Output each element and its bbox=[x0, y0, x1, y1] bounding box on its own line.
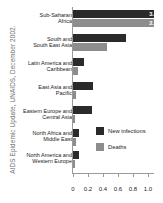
bar-deaths-east-asia-and-pacific bbox=[73, 91, 76, 99]
bar-deaths-south-and-south-east-asia bbox=[73, 43, 107, 51]
x-axis-tick bbox=[148, 173, 149, 177]
bar-value-new-infections-sub-saharan-africa: 3.2 bbox=[149, 10, 157, 18]
bar-deaths-north-america-and-western-europe bbox=[73, 160, 75, 168]
x-axis-tick-label: 0.2 bbox=[80, 186, 96, 192]
bar-new-infections-north-america-and-western-europe bbox=[73, 151, 79, 159]
legend-item-deaths: Deaths bbox=[96, 141, 146, 153]
bar-deaths-north-africa-and-middle-east bbox=[73, 138, 76, 146]
x-axis-line bbox=[72, 173, 154, 174]
x-axis-tick bbox=[118, 173, 119, 177]
bar-new-infections-east-asia-and-pacific bbox=[73, 82, 93, 90]
y-axis-line bbox=[72, 7, 73, 173]
x-axis-tick-label: 0.8 bbox=[125, 186, 141, 192]
bar-deaths-eastern-europe-and-central-asia bbox=[73, 115, 75, 123]
x-axis-tick-label: 1.0 bbox=[140, 186, 156, 192]
legend-swatch-deaths-icon bbox=[96, 143, 104, 151]
legend-label-deaths: Deaths bbox=[108, 144, 126, 150]
chart-legend: New infections Deaths bbox=[96, 125, 146, 157]
category-label-north-america-and-western-europe: North America and Western Europe bbox=[16, 152, 72, 164]
legend-swatch-new-infections-icon bbox=[96, 127, 104, 135]
legend-item-new-infections: New infections bbox=[96, 125, 146, 137]
bar-new-infections-south-and-south-east-asia bbox=[73, 34, 126, 42]
bar-new-infections-sub-saharan-africa bbox=[73, 10, 154, 18]
x-axis-tick bbox=[103, 173, 104, 177]
legend-label-new-infections: New infections bbox=[108, 128, 146, 134]
category-label-eastern-europe-and-central-asia: Eastern Europe and Central Asia bbox=[16, 108, 72, 120]
bar-deaths-sub-saharan-africa bbox=[73, 19, 154, 27]
bar-deaths-latin-america-and-caribbean bbox=[73, 67, 78, 75]
bar-new-infections-eastern-europe-and-central-asia bbox=[73, 106, 92, 114]
bar-new-infections-latin-america-and-caribbean bbox=[73, 58, 84, 66]
bar-value-deaths-sub-saharan-africa: 2.3 bbox=[149, 19, 157, 27]
x-axis-tick bbox=[73, 173, 74, 177]
x-axis-tick-label: 0.4 bbox=[95, 186, 111, 192]
category-label-south-and-south-east-asia: South and South East Asia bbox=[16, 36, 72, 48]
x-axis-tick-label: 0.6 bbox=[110, 186, 126, 192]
chart-figure: AIDS Epidemic Update, UNAIDS, December 2… bbox=[0, 0, 163, 203]
x-axis-tick bbox=[133, 173, 134, 177]
plot-area: Sub-Saharan Africa South and South East … bbox=[0, 0, 163, 203]
x-axis-tick-label: 0 bbox=[65, 186, 81, 192]
bar-new-infections-north-africa-and-middle-east bbox=[73, 129, 79, 137]
category-label-east-asia-and-pacific: East Asia and Pacific bbox=[16, 84, 72, 96]
category-label-north-africa-and-middle-east: North Africa and Middle East bbox=[16, 130, 72, 142]
category-label-latin-america-and-caribbean: Latin America and Caribbean bbox=[16, 60, 72, 72]
x-axis-tick bbox=[88, 173, 89, 177]
category-label-sub-saharan-africa: Sub-Saharan Africa bbox=[16, 12, 72, 24]
